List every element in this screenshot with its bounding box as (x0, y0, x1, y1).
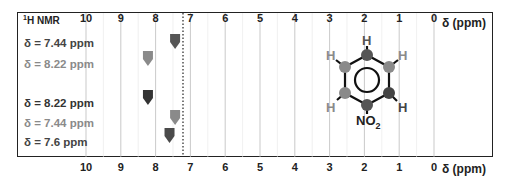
nmr-chart: 109876543210 109876543210 (0, 0, 509, 183)
tick-label: 0 (431, 12, 437, 24)
carbon-atoms (339, 49, 395, 111)
tick-label: 6 (222, 12, 228, 24)
tick-label: 5 (257, 161, 263, 173)
tick-label: 4 (292, 12, 299, 24)
tick-label: 8 (153, 161, 159, 173)
hydrogen-top-right: H (398, 48, 407, 63)
grid-lines (86, 13, 434, 157)
hydrogen-bottom-right: H (398, 100, 407, 115)
tick-label: 7 (187, 12, 193, 24)
peak-marker (170, 34, 180, 49)
tick-label: 2 (361, 12, 367, 24)
x-axis-label-top: δ (ppm) (442, 16, 486, 30)
tick-label: 9 (118, 12, 124, 24)
tick-label: 7 (187, 161, 193, 173)
legend-label-5: δ = 7.6 ppm (24, 136, 88, 148)
legend-label-1: δ = 7.44 ppm (24, 37, 94, 49)
tick-label: 10 (80, 161, 92, 173)
legend-label-4: δ = 7.44 ppm (24, 117, 94, 129)
tick-label: 8 (153, 12, 159, 24)
tick-label: 10 (80, 12, 92, 24)
legend-label-3: δ = 8.22 ppm (24, 97, 94, 109)
tick-label: 6 (222, 161, 228, 173)
peak-marker (170, 110, 180, 125)
tick-label: 0 (431, 161, 437, 173)
peak-markers (143, 34, 180, 143)
tick-label: 1 (396, 161, 402, 173)
tick-label: 9 (118, 161, 124, 173)
tick-label: 1 (396, 12, 402, 24)
tick-label: 3 (327, 12, 333, 24)
hydrogen-bottom-left: H (326, 100, 335, 115)
nitro-group-label: NO2 (356, 113, 381, 131)
tick-label: 4 (292, 161, 299, 173)
hydrogen-top: H (362, 33, 371, 48)
chart-title: 1H NMR (23, 14, 60, 26)
bottom-axis-ticks: 109876543210 (80, 161, 437, 173)
tick-label: 3 (327, 161, 333, 173)
legend-label-2: δ = 8.22 ppm (24, 58, 94, 70)
x-axis-label-bottom: δ (ppm) (442, 162, 486, 176)
peak-marker (143, 51, 153, 66)
peak-marker (143, 90, 153, 105)
hydrogen-top-left: H (326, 48, 335, 63)
tick-label: 2 (361, 161, 367, 173)
top-axis-ticks: 109876543210 (80, 12, 437, 24)
tick-label: 5 (257, 12, 263, 24)
